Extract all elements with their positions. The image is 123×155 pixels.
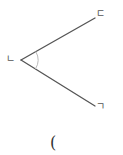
angle-arc <box>35 52 38 69</box>
figure-caption: ( <box>50 133 56 152</box>
ray-to-bottom-point <box>21 60 95 106</box>
vertex-label-top: ㄷ <box>96 9 105 19</box>
ray-to-top-point <box>21 18 95 60</box>
angle-diagram <box>0 0 123 155</box>
vertex-label-angle: ㄴ <box>6 54 15 64</box>
vertex-label-bottom: ㄱ <box>96 102 105 112</box>
